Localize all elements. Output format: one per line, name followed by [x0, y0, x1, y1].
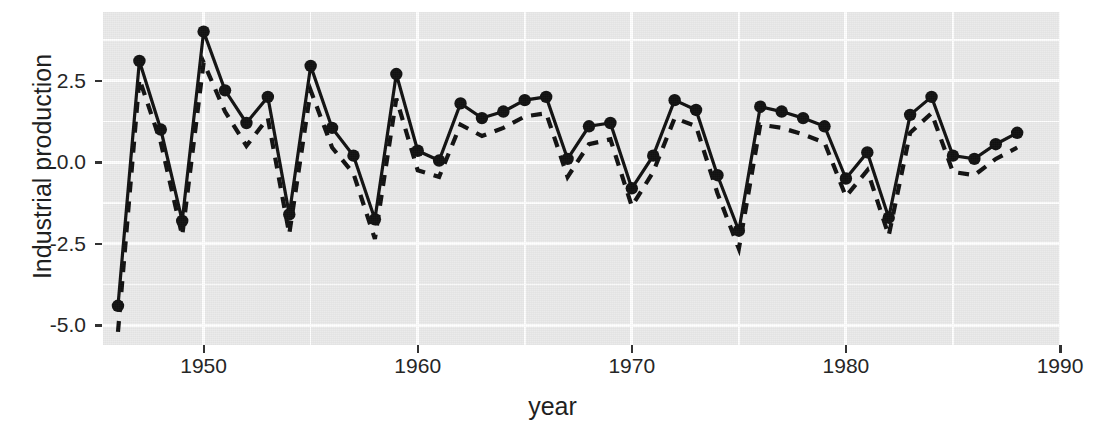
data-point-marker — [1011, 127, 1023, 139]
x-tick-label: 1980 — [796, 355, 896, 376]
y-tick-mark — [95, 243, 102, 246]
data-point-marker — [711, 169, 723, 181]
x-tick-label: 1950 — [154, 355, 254, 376]
data-point-marker — [626, 182, 638, 194]
data-point-marker — [369, 213, 381, 225]
data-point-marker — [283, 208, 295, 220]
x-tick-mark — [845, 345, 848, 353]
data-point-marker — [133, 55, 145, 67]
data-point-marker — [968, 153, 980, 165]
x-tick-mark — [631, 345, 634, 353]
data-point-marker — [604, 117, 616, 129]
data-point-marker — [219, 84, 231, 96]
data-point-marker — [690, 104, 702, 116]
data-point-marker — [775, 105, 787, 117]
data-point-marker — [583, 120, 595, 132]
plot-area — [103, 12, 1060, 345]
data-point-marker — [754, 100, 766, 112]
data-point-marker — [925, 91, 937, 103]
data-point-marker — [112, 300, 124, 312]
chart-figure: Industrial production 2.50.0-2.5-5.0 195… — [0, 0, 1105, 429]
data-point-marker — [818, 120, 830, 132]
x-tick-label: 1970 — [582, 355, 682, 376]
data-point-marker — [540, 91, 552, 103]
data-point-marker — [733, 225, 745, 237]
data-point-marker — [668, 94, 680, 106]
data-point-marker — [454, 97, 466, 109]
data-point-marker — [197, 25, 209, 37]
plot-panel — [103, 12, 1060, 345]
data-point-marker — [412, 145, 424, 157]
data-point-marker — [904, 109, 916, 121]
x-tick-mark — [1059, 345, 1062, 353]
data-point-marker — [390, 68, 402, 80]
data-point-marker — [519, 94, 531, 106]
data-point-marker — [883, 211, 895, 223]
data-point-marker — [861, 146, 873, 158]
observed-series-line — [118, 32, 1017, 306]
data-point-marker — [176, 215, 188, 227]
data-point-marker — [947, 149, 959, 161]
y-tick-label: 0.0 — [0, 151, 86, 172]
x-tick-label: 1960 — [368, 355, 468, 376]
data-point-marker — [155, 123, 167, 135]
data-point-marker — [797, 112, 809, 124]
x-axis-title: year — [0, 392, 1105, 421]
data-point-marker — [647, 149, 659, 161]
y-tick-label: -2.5 — [0, 233, 86, 254]
data-point-marker — [262, 91, 274, 103]
y-tick-mark — [95, 324, 102, 327]
data-point-marker — [840, 172, 852, 184]
x-tick-label: 1990 — [1010, 355, 1105, 376]
x-tick-mark — [417, 345, 420, 353]
y-tick-label: -5.0 — [0, 314, 86, 335]
data-point-marker — [240, 117, 252, 129]
y-axis-title-wrapper: Industrial production — [0, 0, 1, 1]
observed-series-markers — [112, 25, 1024, 312]
data-point-marker — [476, 112, 488, 124]
y-tick-mark — [95, 80, 102, 83]
data-point-marker — [497, 105, 509, 117]
data-point-marker — [304, 60, 316, 72]
data-point-marker — [561, 153, 573, 165]
data-point-marker — [990, 138, 1002, 150]
data-point-marker — [326, 122, 338, 134]
data-point-marker — [347, 149, 359, 161]
data-point-marker — [433, 154, 445, 166]
y-tick-mark — [95, 161, 102, 164]
x-tick-mark — [203, 345, 206, 353]
y-tick-label: 2.5 — [0, 70, 86, 91]
